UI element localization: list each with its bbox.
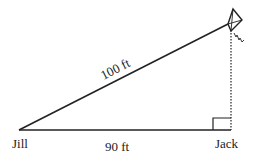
kite-string (19, 24, 228, 130)
kite-tail (234, 33, 244, 42)
kite-triangle-diagram: 100 ft 90 ft Jill Jack (0, 0, 261, 158)
hypotenuse-label: 100 ft (98, 55, 133, 82)
jack-label: Jack (215, 136, 239, 151)
diagram-canvas: 100 ft 90 ft Jill Jack (0, 0, 261, 158)
base-label: 90 ft (105, 139, 130, 154)
right-angle-marker (213, 118, 231, 130)
jill-label: Jill (12, 136, 28, 151)
